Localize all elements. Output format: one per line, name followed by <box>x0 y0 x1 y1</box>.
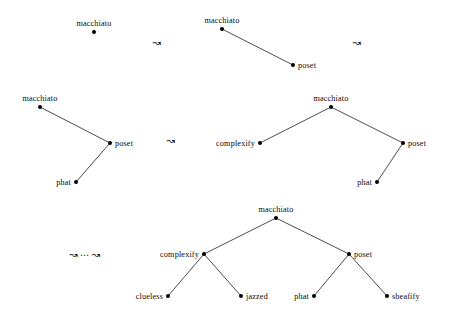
tree-node-dot <box>74 180 78 184</box>
tree-node-label: phat <box>357 178 372 187</box>
tree-node-label: complexify <box>216 139 255 148</box>
tree-node-label: macchiato <box>204 16 239 25</box>
tree-node-dot <box>202 252 206 256</box>
tree-node-dot <box>375 180 379 184</box>
rewrite-arrow: ↝ <box>153 38 161 48</box>
rewrite-arrow: ↝⋯↝ <box>70 250 101 260</box>
tree-node-label: phat <box>56 178 71 187</box>
tree-edges-layer <box>0 0 452 318</box>
tree-node-dot <box>38 105 42 109</box>
tree-node-label: phat <box>294 292 309 301</box>
tree-node-label: poset <box>298 61 316 70</box>
tree-edge <box>40 107 110 143</box>
tree-node-label: complexify <box>160 250 199 259</box>
tree-edge <box>314 254 349 296</box>
tree-edge <box>377 143 403 182</box>
tree-node-label: jazzed <box>246 292 268 301</box>
tree-node-dot <box>347 252 351 256</box>
tree-node-label: poset <box>115 139 133 148</box>
tree-node-dot <box>239 294 243 298</box>
tree-edge <box>349 254 387 296</box>
rewrite-arrow: ↝ <box>353 38 361 48</box>
tree-edge <box>276 218 349 254</box>
tree-edge <box>204 218 276 254</box>
tree-edge <box>222 29 293 65</box>
tree-edge <box>331 107 403 143</box>
tree-node-label: macchiato <box>313 94 348 103</box>
tree-node-dot <box>274 216 278 220</box>
tree-node-label: sheafify <box>392 292 420 301</box>
tree-node-dot <box>92 30 96 34</box>
tree-node-label: macchiato <box>76 19 111 28</box>
ellipsis-glyph: ⋯ <box>78 250 92 260</box>
tree-node-dot <box>385 294 389 298</box>
tree-edge <box>168 254 204 296</box>
tree-node-dot <box>291 63 295 67</box>
tree-node-label: poset <box>354 250 372 259</box>
tree-node-dot <box>108 141 112 145</box>
tree-node-label: poset <box>408 139 426 148</box>
tree-node-dot <box>220 27 224 31</box>
tree-edge <box>76 143 110 182</box>
tree-node-label: macchiato <box>258 205 293 214</box>
tree-node-dot <box>401 141 405 145</box>
rewrite-arrow-glyph: ↝ <box>92 249 100 260</box>
tree-node-label: clueless <box>136 292 163 301</box>
tree-node-dot <box>312 294 316 298</box>
diagram-canvas: macchiatomacchiatoposetmacchiatoposetpha… <box>0 0 452 318</box>
tree-node-dot <box>258 141 262 145</box>
tree-edge <box>204 254 241 296</box>
tree-edge <box>260 107 331 143</box>
rewrite-arrow: ↝ <box>167 136 175 146</box>
tree-node-dot <box>166 294 170 298</box>
tree-node-label: macchiato <box>22 94 57 103</box>
tree-node-dot <box>329 105 333 109</box>
